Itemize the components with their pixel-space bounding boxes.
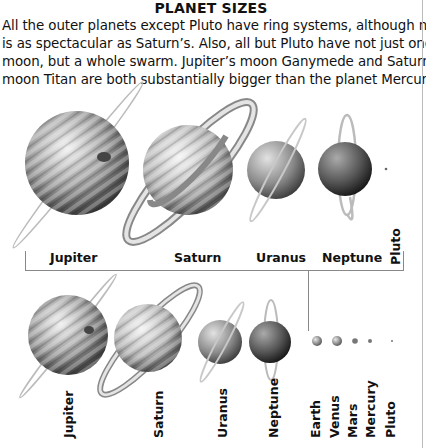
bracket-drop-line [308,271,309,331]
label-venus: Venus [327,395,342,438]
venus-icon [332,336,342,346]
pluto-top-icon [385,168,388,171]
top-row-bracket [25,251,404,271]
uranus-top-icon [245,116,310,224]
label-saturn-bottom: Saturn [151,391,166,438]
label-mercury: Mercury [363,380,378,438]
label-jupiter-bottom: Jupiter [61,391,76,438]
label-uranus-bottom: Uranus [215,388,230,438]
mercury-icon [368,339,372,343]
mars-icon [352,338,358,344]
pluto-bottom-icon [391,340,393,342]
uranus-bottom-icon [196,300,247,384]
neptune-bottom-icon [249,300,291,380]
earth-icon [312,336,322,346]
label-pluto-bottom: Pluto [383,401,398,438]
label-mars: Mars [345,404,360,438]
label-earth: Earth [308,400,323,438]
neptune-top-icon [318,115,372,219]
saturn-top-icon [112,89,268,255]
label-neptune-bottom: Neptune [266,378,281,438]
